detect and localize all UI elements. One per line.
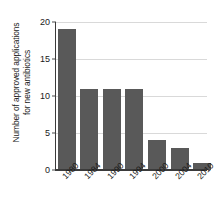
y-tick-label: 5	[45, 128, 50, 138]
y-axis-title: Number of approved applications for new …	[11, 8, 32, 158]
bar-chart: Number of approved applications for new …	[0, 0, 224, 206]
y-axis-title-line-2: for new antibiotics	[21, 8, 32, 158]
bar	[58, 29, 76, 170]
bar	[125, 89, 143, 170]
y-tick-label: 0	[45, 165, 50, 175]
gridline	[56, 22, 207, 23]
y-tick-label: 10	[40, 91, 50, 101]
bar	[103, 89, 121, 170]
y-tick-label: 15	[40, 54, 50, 64]
y-tick-label: 20	[40, 17, 50, 27]
bar	[80, 89, 98, 170]
y-axis-line	[55, 22, 56, 171]
gridline	[56, 59, 207, 60]
plot-area: 05101520	[56, 22, 207, 170]
y-axis-title-line-1: Number of approved applications	[11, 8, 22, 158]
